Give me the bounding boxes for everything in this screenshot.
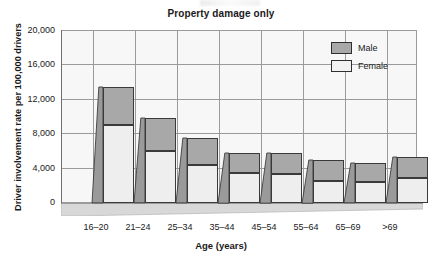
bar-segment-female-8[interactable]	[397, 178, 428, 203]
bar-segment-male-3[interactable]	[187, 138, 218, 165]
bar-segment-male-4[interactable]	[229, 153, 260, 173]
chart-title: Property damage only	[0, 8, 442, 19]
xtick-label-45-54: 45–54	[241, 222, 287, 232]
bar-segment-female-5[interactable]	[271, 174, 302, 203]
ytick-0: 0	[3, 197, 55, 207]
scan-artifact	[200, 0, 260, 6]
xtick-label-65-69: 65–69	[325, 222, 371, 232]
bar-column-4[interactable]	[229, 153, 260, 203]
bar-segment-male-7[interactable]	[355, 163, 386, 182]
bar-column-7[interactable]	[355, 163, 386, 203]
xtick-label-35-44: 35–44	[199, 222, 245, 232]
ytick-4000: 4,000	[3, 163, 55, 173]
bar-segment-female-2[interactable]	[145, 151, 176, 203]
legend-swatch-female	[331, 60, 352, 72]
bar-segment-male-6[interactable]	[313, 160, 344, 181]
xtick-label-25-34: 25–34	[157, 222, 203, 232]
xtick-label-21-24: 21–24	[115, 222, 161, 232]
bar-column-5[interactable]	[271, 153, 302, 203]
bar-segment-male-8[interactable]	[397, 157, 428, 178]
bar-segment-female-7[interactable]	[355, 182, 386, 203]
x-axis-title: Age (years)	[0, 240, 442, 251]
bar-column-3[interactable]	[187, 138, 218, 203]
legend-item-female[interactable]: Female	[331, 59, 415, 73]
bar-segment-male-5[interactable]	[271, 153, 302, 175]
xtick-label-55-64: 55–64	[283, 222, 329, 232]
chart-figure: Property damage only Driver involvement …	[0, 0, 442, 264]
xtick-label-over-69: >69	[367, 222, 413, 232]
ytick-12000: 12,000	[3, 94, 55, 104]
legend: Male Female	[331, 41, 415, 77]
legend-swatch-male	[331, 42, 352, 54]
bar-column-6[interactable]	[313, 160, 344, 203]
ytick-20000: 20,000	[3, 25, 55, 35]
bar-column-1[interactable]	[103, 87, 134, 203]
bar-segment-male-2[interactable]	[145, 118, 176, 151]
bar-segment-female-6[interactable]	[313, 181, 344, 203]
bar-column-8[interactable]	[397, 157, 428, 203]
bar-segment-female-4[interactable]	[229, 173, 260, 203]
legend-label-male: Male	[358, 43, 378, 53]
bar-segment-female-1[interactable]	[103, 125, 134, 203]
y-axis-title: Driver involvement rate per 100,000 driv…	[13, 17, 23, 217]
bar-column-2[interactable]	[145, 118, 176, 203]
bar-segment-female-3[interactable]	[187, 165, 218, 203]
ytick-8000: 8,000	[3, 128, 55, 138]
bar-segment-male-1[interactable]	[103, 87, 134, 125]
ytick-16000: 16,000	[3, 59, 55, 69]
legend-label-female: Female	[358, 61, 388, 71]
xtick-label-16-20: 16–20	[73, 222, 119, 232]
legend-item-male[interactable]: Male	[331, 41, 415, 55]
